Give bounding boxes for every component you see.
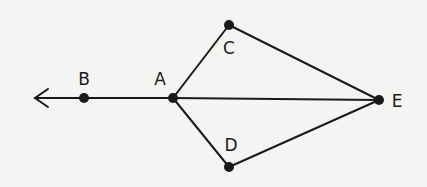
segment-CE [229, 25, 379, 100]
segment-AE [173, 98, 379, 100]
label-E: E [392, 91, 403, 111]
point-A [168, 93, 178, 103]
segment-DE [229, 100, 379, 167]
segment-AC [173, 25, 229, 98]
geometry-diagram: B A C D E [0, 0, 427, 187]
point-C [224, 20, 234, 30]
segment-AD [173, 98, 229, 167]
point-D [224, 162, 234, 172]
point-E [374, 95, 384, 105]
diagram-canvas: B A C D E [0, 0, 427, 187]
label-D: D [224, 135, 237, 155]
label-B: B [78, 69, 90, 89]
label-C: C [223, 38, 235, 58]
label-A: A [154, 69, 166, 89]
point-B [79, 93, 89, 103]
